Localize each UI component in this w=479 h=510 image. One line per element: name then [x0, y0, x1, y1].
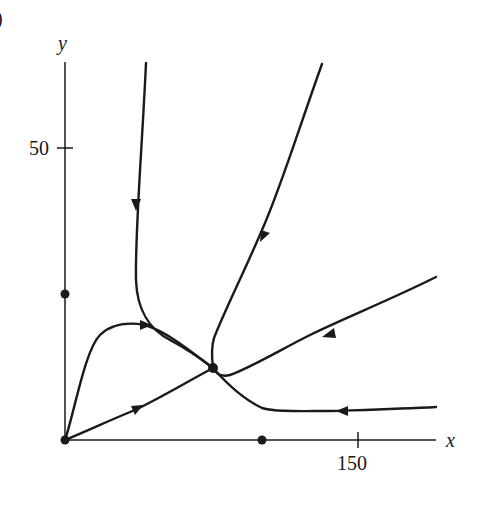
y-axis-label: y — [56, 32, 67, 55]
trajectory-origin-diagonal — [65, 368, 213, 440]
direction-arrows — [131, 199, 348, 416]
y-tick-label-50: 50 — [29, 137, 49, 159]
arrow-down-left-icon — [260, 230, 270, 242]
arrow-left-icon — [336, 406, 348, 416]
trajectory-right-upper — [213, 277, 436, 376]
panel-label: ) — [0, 7, 3, 30]
trajectory-origin-up — [65, 324, 213, 440]
arrow-down-icon — [131, 199, 141, 211]
equilibrium-saddle — [208, 363, 218, 373]
x-axis-label: x — [445, 429, 455, 451]
equilibrium-points — [61, 290, 267, 445]
trajectory-top-left — [136, 63, 213, 368]
trajectories — [65, 63, 436, 440]
equilibrium-y-axis — [61, 290, 70, 299]
axes — [57, 62, 436, 448]
x-tick-label-150: 150 — [337, 452, 367, 474]
equilibrium-origin — [61, 436, 70, 445]
trajectory-right-lower — [213, 368, 436, 411]
arrow-right-icon — [140, 320, 152, 330]
trajectory-top-right — [212, 64, 322, 368]
phase-portrait-chart: ) y x 50 150 — [0, 0, 479, 510]
equilibrium-x-axis — [258, 436, 267, 445]
arrow-up-right-icon — [131, 405, 143, 415]
